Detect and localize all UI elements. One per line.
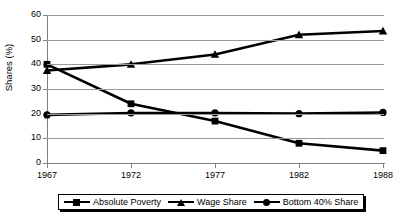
legend-label: Wage Share [197,197,247,207]
gridline [47,15,384,16]
data-point-marker [296,140,303,147]
legend-marker-circle-icon [263,199,270,206]
legend-marker-square-icon [73,199,80,206]
y-tick-label: 50 [19,35,41,44]
legend-label: Absolute Poverty [93,197,161,207]
x-tick-label: 1988 [360,170,406,180]
legend-label: Bottom 40% Share [283,197,359,207]
y-tick-label: 20 [19,109,41,118]
y-tick-label-wrap: 60 [0,10,41,19]
x-tick-mark [215,163,216,168]
y-tick-label-wrap: 30 [0,84,41,93]
gridline [47,40,384,41]
y-tick-label-wrap: 50 [0,35,41,44]
plot-area [47,15,384,163]
y-tick-label: 10 [19,133,41,142]
gridline [47,89,384,90]
data-point-marker [380,147,387,154]
legend-item: Bottom 40% Share [254,195,359,209]
x-tick-mark [299,163,300,168]
y-tick-label: 40 [19,59,41,68]
x-tick-label: 1982 [276,170,322,180]
series-absolute-poverty [44,61,387,154]
data-point-marker [43,111,50,118]
x-tick-mark [383,163,384,168]
legend-marker-triangle-icon [177,199,185,206]
y-tick-label: 0 [19,158,41,167]
y-tick-label-wrap: 0 [0,158,41,167]
y-tick-label-wrap: 40 [0,59,41,68]
x-tick-label: 1967 [24,170,70,180]
data-point-marker [379,109,386,116]
x-tick-label: 1972 [108,170,154,180]
chart-legend: Absolute PovertyWage ShareBottom 40% Sha… [58,194,364,210]
x-tick-mark [47,163,48,168]
x-axis-line [47,163,385,164]
y-tick-label-wrap: 10 [0,133,41,142]
series-wage-share [43,27,387,74]
data-point-marker [128,100,135,107]
x-tick-label: 1977 [192,170,238,180]
gridline [47,64,384,65]
x-tick-mark [131,163,132,168]
data-point-marker [212,118,219,125]
legend-swatch [254,197,280,207]
legend-item: Wage Share [168,195,247,209]
gridline [47,114,384,115]
chart-figure: Shares (%) 0102030405060 196719721977198… [0,0,411,221]
y-tick-label: 60 [19,10,41,19]
legend-swatch [64,197,90,207]
gridline [47,138,384,139]
legend-item: Absolute Poverty [64,195,161,209]
legend-swatch [168,197,194,207]
y-tick-label-wrap: 20 [0,109,41,118]
y-tick-label: 30 [19,84,41,93]
